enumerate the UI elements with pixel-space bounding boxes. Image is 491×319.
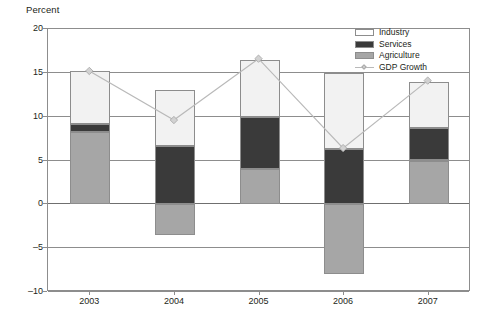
bar-segment-agriculture	[240, 169, 280, 204]
legend-item-agriculture[interactable]: Agriculture	[355, 50, 467, 61]
y-axis-tick-label: 10	[3, 111, 43, 120]
legend-item-gdp-growth[interactable]: GDP Growth	[355, 62, 467, 73]
bar-segment-agriculture	[70, 132, 110, 204]
legend-label: GDP Growth	[379, 62, 427, 73]
chart-legend: IndustryServicesAgricultureGDP Growth	[355, 27, 467, 73]
bar-segment-agriculture	[324, 204, 364, 274]
legend-line-marker-icon	[355, 64, 374, 71]
x-axis-tick-mark	[89, 291, 90, 295]
legend-swatch-icon	[355, 52, 374, 59]
chart-container: Percent 20151050–5–10 IndustryServicesAg…	[0, 0, 491, 319]
bar-segment-agriculture	[409, 161, 449, 205]
bar-segment-industry	[240, 60, 280, 117]
x-axis-tick-label: 2006	[333, 297, 353, 306]
bar-segment-services	[70, 124, 110, 133]
y-axis-tick-mark	[43, 28, 47, 29]
bar-segment-industry	[409, 82, 449, 128]
legend-label: Industry	[379, 27, 409, 38]
y-axis-tick-mark	[43, 247, 47, 248]
bar-segment-services	[409, 128, 449, 160]
y-axis-tick-mark	[43, 291, 47, 292]
y-axis-tick-label: 0	[3, 199, 43, 208]
bar-segment-industry	[155, 90, 195, 145]
x-axis-tick-mark	[174, 291, 175, 295]
bar-segment-agriculture	[155, 204, 195, 235]
legend-label: Agriculture	[379, 50, 420, 61]
legend-swatch-icon	[355, 41, 374, 48]
y-axis-tick-mark	[43, 116, 47, 117]
legend-item-industry[interactable]: Industry	[355, 27, 467, 38]
x-axis-tick-label: 2005	[248, 297, 268, 306]
legend-item-services[interactable]: Services	[355, 39, 467, 50]
y-axis-tick-label: –5	[3, 243, 43, 252]
y-axis-tick-mark	[43, 203, 47, 204]
bar-segment-services	[155, 146, 195, 205]
x-axis-tick-label: 2004	[164, 297, 184, 306]
y-axis-tick-label: 20	[3, 24, 43, 33]
x-axis-tick-mark	[343, 291, 344, 295]
y-axis-tick-mark	[43, 160, 47, 161]
bar-segment-services	[240, 117, 280, 170]
y-axis-tick-label: 5	[3, 155, 43, 164]
y-axis-tick-mark	[43, 72, 47, 73]
x-axis-tick-mark	[428, 291, 429, 295]
x-axis-tick-label: 2007	[418, 297, 438, 306]
bar-segment-industry	[324, 73, 364, 149]
y-axis: 20151050–5–10	[0, 0, 43, 319]
bar-segment-industry	[70, 71, 110, 124]
y-axis-tick-label: 15	[3, 67, 43, 76]
x-axis-tick-mark	[259, 291, 260, 295]
legend-swatch-icon	[355, 29, 374, 36]
gridline	[48, 247, 469, 248]
x-axis-tick-label: 2003	[79, 297, 99, 306]
bar-segment-services	[324, 149, 364, 204]
y-axis-tick-label: –10	[3, 287, 43, 296]
legend-label: Services	[379, 39, 412, 50]
